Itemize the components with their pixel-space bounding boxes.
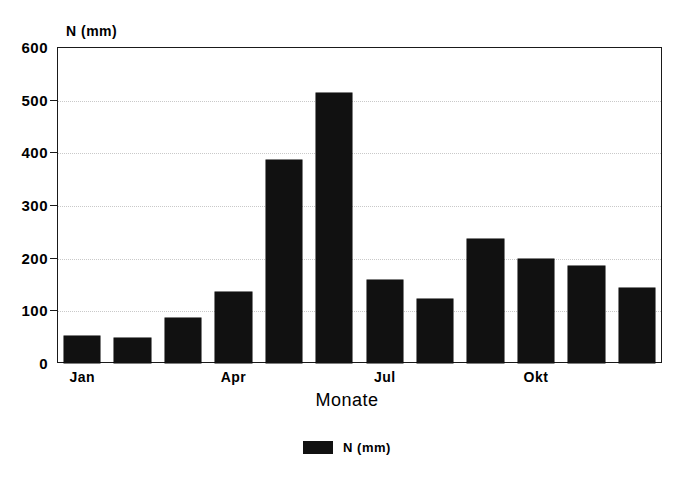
- chart-legend: N (mm): [0, 440, 694, 455]
- x-tick-label-apr: Apr: [208, 366, 258, 390]
- gridline-500: [58, 101, 661, 102]
- y-axis-caption: N (mm): [66, 23, 117, 39]
- y-tick-label-100: 100: [0, 302, 48, 319]
- gridline-300: [58, 206, 661, 207]
- x-tick-label-jul: Jul: [360, 366, 410, 390]
- gridline-100: [58, 311, 661, 312]
- x-axis-caption: Monate: [0, 390, 694, 411]
- plot-area: [57, 47, 662, 363]
- y-tick-label-600: 600: [0, 39, 48, 56]
- gridline-400: [58, 153, 661, 154]
- x-axis-tick-labels: JanAprJulOkt: [57, 366, 662, 390]
- y-tick-label-400: 400: [0, 144, 48, 161]
- x-tick-label-blank-5: [309, 366, 359, 390]
- y-tick-mark-500: [50, 100, 57, 101]
- y-tick-mark-300: [50, 205, 57, 206]
- x-tick-label-jan: Jan: [57, 366, 107, 390]
- x-tick-label-okt: Okt: [511, 366, 561, 390]
- x-tick-label-blank-11: [612, 366, 662, 390]
- x-tick-label-blank-4: [259, 366, 309, 390]
- gridline-200: [58, 259, 661, 260]
- y-tick-label-0: 0: [0, 355, 48, 372]
- bar-chart-figure: N (mm) 0100200300400500600 JanAprJulOkt …: [0, 0, 694, 489]
- legend-swatch-n-mm: [303, 441, 333, 454]
- y-tick-label-500: 500: [0, 91, 48, 108]
- x-tick-label-blank-7: [410, 366, 460, 390]
- chart-title-cropped: [0, 0, 694, 7]
- y-tick-mark-400: [50, 152, 57, 153]
- y-tick-mark-200: [50, 258, 57, 259]
- x-tick-label-blank-1: [107, 366, 157, 390]
- y-tick-label-200: 200: [0, 249, 48, 266]
- x-tick-label-blank-8: [460, 366, 510, 390]
- x-tick-label-blank-2: [158, 366, 208, 390]
- y-tick-mark-100: [50, 310, 57, 311]
- x-tick-label-blank-10: [561, 366, 611, 390]
- y-tick-label-300: 300: [0, 197, 48, 214]
- legend-label: N (mm): [343, 440, 391, 455]
